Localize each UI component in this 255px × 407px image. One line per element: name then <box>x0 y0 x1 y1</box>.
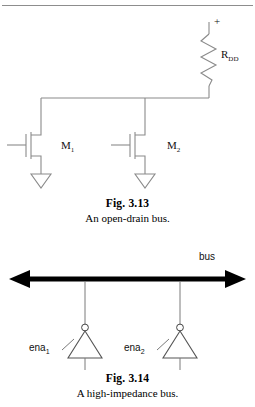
tristate-buffer-2-group: ena2 <box>124 281 197 370</box>
figure-3-13-text: An open-drain bus. <box>0 211 255 225</box>
open-drain-bus-wire-group <box>41 98 209 126</box>
transistor-m1-label: M1 <box>61 139 75 154</box>
buffer-1-enable-wire <box>62 339 74 350</box>
bus-label: bus <box>199 251 215 262</box>
transistor-m2-label: M2 <box>167 139 181 154</box>
tristate-buffer-1-group: ena1 <box>29 281 102 370</box>
m2-drain-stub <box>135 126 145 135</box>
figure-3-14-caption: Fig. 3.14 A high-impedance bus. <box>0 371 255 400</box>
enable-1-label: ena1 <box>29 342 50 355</box>
figure-3-14-number: Fig. 3.14 <box>0 371 255 385</box>
m1-drain-stub <box>31 126 41 135</box>
nmos-transistor-m1-group: M1 <box>7 126 75 188</box>
bus-arrowhead-left <box>9 270 30 288</box>
figure-3-13-diagram: + RDD M <box>0 8 255 198</box>
page-top-rule <box>2 5 253 6</box>
figure-3-14-text: A high-impedance bus. <box>0 386 255 400</box>
inverter-triangle-1 <box>68 331 102 358</box>
supply-plus-label: + <box>214 15 220 27</box>
figure-3-13-number: Fig. 3.13 <box>0 196 255 210</box>
resistor-label: RDD <box>221 48 238 63</box>
inverter-bubble-1 <box>82 324 89 331</box>
resistor-zigzag <box>201 34 216 86</box>
enable-2-label: ena2 <box>124 342 145 355</box>
inverter-triangle-2 <box>163 331 197 358</box>
ground-symbol-2 <box>135 174 155 188</box>
supply-terminal-group: + <box>209 15 220 34</box>
figure-3-14-diagram: bus ena1 ena2 <box>0 238 255 373</box>
inverter-bubble-2 <box>177 324 184 331</box>
buffer-2-enable-wire <box>157 339 169 350</box>
m2-source-stub <box>135 156 145 174</box>
bus-arrowhead-right <box>225 270 246 288</box>
figure-3-13-caption: Fig. 3.13 An open-drain bus. <box>0 196 255 225</box>
m1-source-stub <box>31 156 41 174</box>
ground-symbol-1 <box>31 174 51 188</box>
pull-up-resistor-group: RDD <box>201 34 238 98</box>
nmos-transistor-m2-group: M2 <box>111 126 181 188</box>
figure-page: + RDD M <box>0 0 255 407</box>
bidirectional-bus-group <box>9 270 246 288</box>
